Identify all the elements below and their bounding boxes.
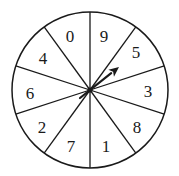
spinner-hub [87,87,92,92]
arrow-shaft [80,73,111,98]
sector-label-1: 1 [102,137,111,156]
sector-label-9: 9 [100,27,109,46]
spoke-line [90,27,136,90]
sector-label-8: 8 [133,118,142,137]
spoke-line [90,90,164,114]
spoke-line [90,66,164,90]
sector-label-5: 5 [132,43,141,62]
sector-label-6: 6 [26,84,35,103]
sector-label-2: 2 [38,118,47,137]
sector-label-0: 0 [66,27,75,46]
sector-label-3: 3 [144,82,153,101]
sector-label-7: 7 [67,137,76,156]
sector-label-4: 4 [39,49,48,68]
spoke-line [90,90,136,153]
spinner-diagram: 9 5 3 8 1 7 2 6 4 0 [0,0,179,176]
